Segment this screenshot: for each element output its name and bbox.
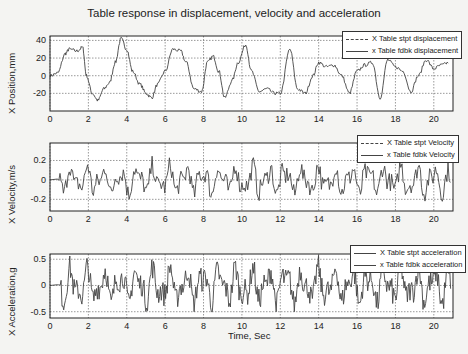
legend-label: X Table stpt displacement [372,33,457,45]
svg-text:20: 20 [429,214,439,224]
svg-text:0: 0 [41,71,46,81]
svg-text:6: 6 [163,214,168,224]
svg-text:40: 40 [36,35,46,45]
svg-text:-0.5: -0.5 [30,307,46,317]
y-axis-label-acceleration: X Acceleration,g [6,267,17,336]
svg-text:20: 20 [429,114,439,124]
svg-text:12: 12 [275,214,285,224]
x-axis-label: Time, Sec [228,330,270,341]
svg-text:16: 16 [352,321,362,331]
y-axis-label-velocity: X Velocity,m/s [6,165,17,224]
svg-text:10: 10 [237,114,247,124]
svg-text:16: 16 [352,114,362,124]
solid-line-swatch [354,265,376,266]
svg-text:14: 14 [314,214,324,224]
svg-text:2: 2 [86,321,91,331]
svg-text:8: 8 [201,214,206,224]
chart-title: Table response in displacement, velocity… [0,7,468,19]
dashed-line-swatch [346,39,368,40]
svg-text:20: 20 [429,321,439,331]
solid-line-swatch [354,253,376,254]
legend-label: x Table fdbk acceleration [380,259,462,271]
svg-text:4: 4 [124,114,129,124]
svg-text:6: 6 [163,114,168,124]
svg-text:0.2: 0.2 [33,155,46,165]
svg-text:14: 14 [314,114,324,124]
svg-text:8: 8 [201,321,206,331]
svg-text:16: 16 [352,214,362,224]
solid-line-swatch [346,51,368,52]
svg-text:0: 0 [47,321,52,331]
svg-text:0: 0 [47,114,52,124]
svg-text:20: 20 [36,53,46,63]
svg-text:12: 12 [275,321,285,331]
svg-text:18: 18 [390,321,400,331]
svg-text:14: 14 [314,321,324,331]
svg-text:-0.2: -0.2 [30,194,46,204]
svg-text:-20: -20 [33,88,46,98]
svg-text:4: 4 [124,321,129,331]
svg-text:0.5: 0.5 [33,254,46,264]
legend-label: X Table stpt acceleration [380,247,462,259]
dashed-line-swatch [361,143,383,144]
svg-text:18: 18 [390,214,400,224]
solid-line-swatch [361,155,383,156]
legend-label: x Table fdbk Velocity [387,149,455,161]
y-axis-label-position: X Position,mm [6,53,17,114]
legend-velocity: X Table stpt Velocity x Table fdbk Veloc… [357,135,459,163]
legend-label: x Table fdbk displacement [372,45,458,57]
svg-text:2: 2 [86,214,91,224]
legend-label: X Table stpt Velocity [387,137,454,149]
svg-text:4: 4 [124,214,129,224]
svg-text:8: 8 [201,114,206,124]
svg-text:18: 18 [390,114,400,124]
svg-text:6: 6 [163,321,168,331]
legend-displacement: X Table stpt displacement x Table fdbk d… [342,31,462,59]
svg-text:0: 0 [41,280,46,290]
legend-acceleration: X Table stpt acceleration x Table fdbk a… [350,245,466,273]
svg-text:10: 10 [237,214,247,224]
svg-text:0: 0 [41,175,46,185]
svg-text:0: 0 [47,214,52,224]
svg-text:12: 12 [275,114,285,124]
svg-text:2: 2 [86,114,91,124]
